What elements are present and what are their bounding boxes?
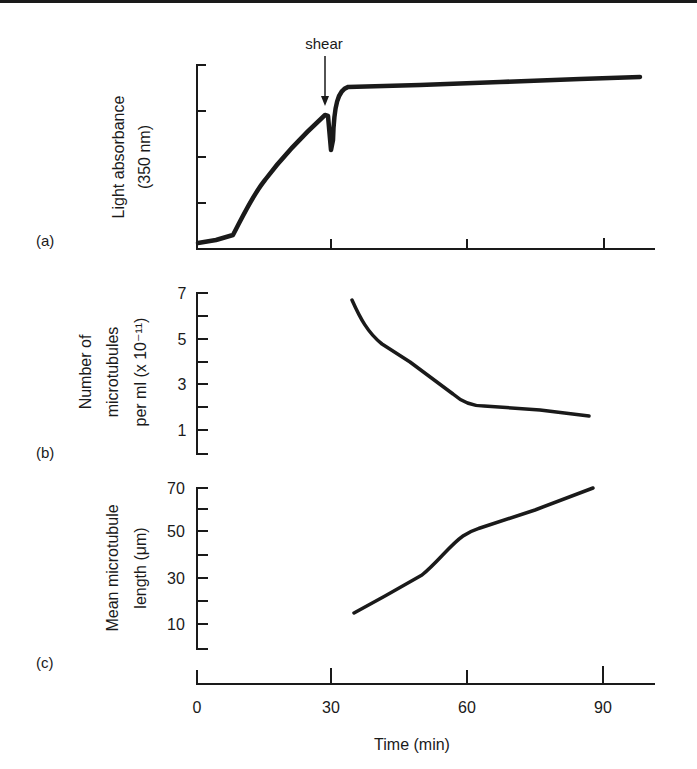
panel-b-ylabel-line2: microtubules [104, 327, 121, 418]
panel-c-ylabel-line1: Mean microtubule [104, 504, 121, 631]
panel-b-ytick-3: 3 [178, 376, 187, 393]
panel-b-ylabel-line3: per ml (x 10⁻¹¹) [132, 318, 149, 427]
shear-annotation: shear [305, 35, 343, 52]
figure: shear (a) Light absorbance (350 nm) 7 5 … [0, 0, 697, 769]
xtick-30: 30 [322, 699, 340, 716]
panel-b-ytick-1: 1 [178, 422, 187, 439]
panel-a-ylabel-line2: (350 nm) [136, 125, 153, 189]
panel-b-label: (b) [36, 444, 54, 461]
xtick-60: 60 [458, 699, 476, 716]
panel-c-ytick-10: 10 [167, 616, 185, 633]
panel-c: 70 50 30 10 (c) Mean microtubule length … [36, 480, 593, 671]
panel-c-label: (c) [36, 654, 54, 671]
panel-a-label: (a) [36, 232, 54, 249]
panel-a-ylabel-line1: Light absorbance [110, 96, 127, 219]
x-axis-title: Time (min) [374, 736, 450, 753]
panel-b-count-curve [352, 300, 589, 416]
panel-c-ytick-30: 30 [167, 570, 185, 587]
panel-a: shear (a) Light absorbance (350 nm) [36, 35, 655, 249]
panel-c-ytick-70: 70 [167, 480, 185, 497]
shear-arrowhead-icon [321, 96, 329, 106]
panel-b-ytick-5: 5 [178, 331, 187, 348]
panel-c-ytick-50: 50 [167, 523, 185, 540]
panel-c-ylabel-line2: length (μm) [132, 527, 149, 608]
xtick-0: 0 [193, 699, 202, 716]
panel-a-y-axis [197, 65, 655, 249]
xtick-90: 90 [594, 699, 612, 716]
x-axis-line [197, 666, 655, 684]
panel-a-x-ticks [331, 238, 604, 249]
panel-c-y-ticks [197, 509, 208, 624]
panel-b-ylabel-line1: Number of [77, 334, 94, 409]
panel-a-y-ticks [197, 111, 206, 203]
panel-b-ytick-7: 7 [178, 285, 187, 302]
panel-a-absorbance-curve [198, 77, 640, 243]
panel-b-y-ticks [197, 316, 208, 430]
shared-x-axis: 0 30 60 90 Time (min) [193, 666, 655, 753]
panel-c-length-curve [354, 488, 593, 613]
panel-b: 7 5 3 1 (b) Number of microtubules per m… [36, 285, 589, 461]
